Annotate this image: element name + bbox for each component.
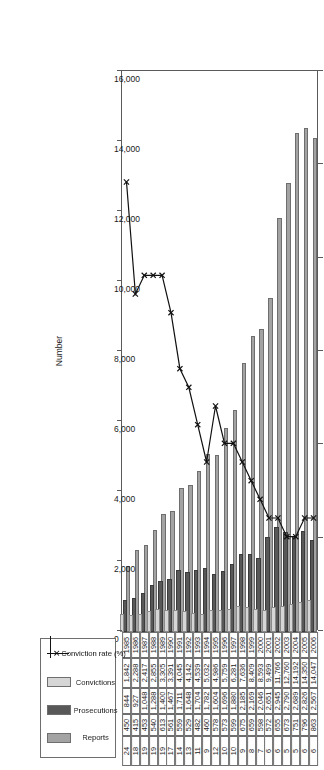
table-cell-conviction-rate-1992: 13 (184, 736, 193, 766)
table-cell-convictions-1996: 573 (220, 714, 229, 736)
legend-swatch (47, 705, 71, 715)
plot-area (122, 70, 318, 630)
table-cell-prosecutions-1995: 1,604 (211, 688, 220, 714)
secondary-tick (318, 257, 323, 258)
table-cell-conviction-rate-1994: 9 (202, 736, 211, 766)
table-cell-convictions-2006: 863 (309, 714, 318, 736)
table-cell-conviction-rate-2005: 6 (300, 736, 309, 766)
table-cell-convictions-1993: 482 (193, 714, 202, 736)
table-cell-prosecutions-1994: 1,782 (202, 688, 211, 714)
table-cell-year-1998: 1998 (238, 632, 247, 658)
primary-tick-label: 4,000 (114, 494, 135, 504)
primary-tick-label: 10,000 (114, 284, 140, 294)
table-cell-convictions-1999: 659 (247, 714, 256, 736)
table-cell-conviction-rate-1995: 12 (211, 736, 220, 766)
table-cell-reports-1997: 6,281 (229, 658, 238, 688)
primary-tick (117, 70, 122, 71)
table-cell-prosecutions-2003: 2,790 (282, 688, 291, 714)
table-cell-conviction-rate-2006: 6 (309, 736, 318, 766)
table-cell-convictions-1985: 450 (122, 714, 131, 736)
table-cell-convictions-1997: 599 (229, 714, 238, 736)
table-cell-prosecutions-2005: 2,826 (300, 688, 309, 714)
table-cell-prosecutions-1987: 1,048 (140, 688, 149, 714)
legend-item-prosecutions[interactable]: Prosecutions (47, 697, 109, 723)
primary-tick (117, 210, 122, 211)
table-cell-reports-1992: 4,142 (184, 658, 193, 688)
table-cell-conviction-rate-1988: 19 (149, 736, 158, 766)
table-cell-conviction-rate-1986: 18 (131, 736, 140, 766)
table-cell-reports-1991: 4,045 (175, 658, 184, 688)
legend-item-reports[interactable]: Reports (47, 725, 109, 751)
table-cell-convictions-1994: 460 (202, 714, 211, 736)
table-cell-year-2002: 2002 (273, 632, 282, 658)
legend-label: Prosecutions (74, 706, 118, 715)
table-cell-conviction-rate-2003: 5 (282, 736, 291, 766)
table-cell-prosecutions-2002: 2,945 (273, 688, 282, 714)
primary-tick-label: 6,000 (114, 424, 135, 434)
table-cell-reports-2003: 12,760 (282, 658, 291, 688)
table-cell-conviction-rate-1985: 24 (122, 736, 131, 766)
table-cell-reports-1996: 5,759 (220, 658, 229, 688)
conviction-rate-marker-2000 (257, 497, 262, 502)
primary-tick-label: 14,000 (114, 144, 140, 154)
legend-label: Reports (82, 734, 109, 743)
table-cell-convictions-2002: 655 (273, 714, 282, 736)
table-cell-conviction-rate-1998: 9 (238, 736, 247, 766)
table-cell-year-1988: 1988 (149, 632, 158, 658)
primary-tick (117, 350, 122, 351)
table-cell-conviction-rate-1991: 14 (175, 736, 184, 766)
chart-canvas: 051015202530 02,0004,0006,0008,00010,000… (0, 0, 324, 770)
table-cell-year-2005: 2005 (300, 632, 309, 658)
table-cell-reports-2004: 14,192 (291, 658, 300, 688)
primary-tick (117, 560, 122, 561)
primary-tick-label: 8,000 (114, 354, 135, 364)
table-cell-reports-2005: 14,350 (300, 658, 309, 688)
table-cell-prosecutions-2004: 2,689 (291, 688, 300, 714)
conviction-rate-marker-1999 (249, 478, 254, 483)
table-cell-reports-1998: 7,636 (238, 658, 247, 688)
table-cell-conviction-rate-1987: 19 (140, 736, 149, 766)
table-cell-reports-2002: 11,766 (273, 658, 282, 688)
table-cell-prosecutions-2006: 2,567 (309, 688, 318, 714)
table-cell-prosecutions-1999: 2,169 (247, 688, 256, 714)
table-cell-year-1986: 1986 (131, 632, 140, 658)
conviction-rate-marker-1998 (240, 459, 245, 464)
legend-item-convictions[interactable]: Convictions (47, 669, 109, 695)
table-cell-reports-1988: 2,855 (149, 658, 158, 688)
table-cell-conviction-rate-1997: 10 (229, 736, 238, 766)
table-cell-year-2004: 2004 (291, 632, 300, 658)
table-cell-conviction-rate-2004: 5 (291, 736, 300, 766)
legend-swatch (47, 677, 71, 687)
table-cell-prosecutions-1988: 1,288 (149, 688, 158, 714)
legend-item-conviction-rate[interactable]: ✕Conviction rate (%) (47, 641, 109, 667)
legend-swatch (47, 733, 71, 743)
table-cell-convictions-1992: 529 (184, 714, 193, 736)
conviction-rate-line-series (122, 70, 318, 630)
secondary-tick (318, 70, 323, 71)
legend-label: Conviction rate (%) (61, 649, 126, 658)
table-cell-reports-1986: 2,288 (131, 658, 140, 688)
table-cell-reports-1995: 4,986 (211, 658, 220, 688)
table-cell-reports-2006: 14,047 (309, 658, 318, 688)
secondary-tick (318, 350, 323, 351)
table-cell-year-1993: 1993 (193, 632, 202, 658)
table-cell-year-1995: 1995 (211, 632, 220, 658)
table-cell-convictions-2004: 751 (291, 714, 300, 736)
table-cell-conviction-rate-1996: 10 (220, 736, 229, 766)
table-cell-year-1999: 1999 (247, 632, 256, 658)
secondary-tick (318, 630, 323, 631)
chart-legend-box: ReportsProsecutionsConvictions✕Convictio… (40, 638, 116, 758)
secondary-tick (318, 163, 323, 164)
primary-tick (117, 490, 122, 491)
table-cell-reports-1985: 1,842 (122, 658, 131, 688)
table-cell-reports-1993: 4,539 (193, 658, 202, 688)
legend-label: Convictions (76, 677, 115, 686)
table-cell-year-1996: 1996 (220, 632, 229, 658)
primary-tick (117, 630, 122, 631)
conviction-rate-polyline (127, 182, 314, 537)
rotated-chart-wrapper: 051015202530 02,0004,0006,0008,00010,000… (0, 0, 324, 770)
primary-tick (117, 140, 122, 141)
table-cell-convictions-2003: 673 (282, 714, 291, 736)
primary-tick (117, 280, 122, 281)
table-cell-year-2003: 2003 (282, 632, 291, 658)
